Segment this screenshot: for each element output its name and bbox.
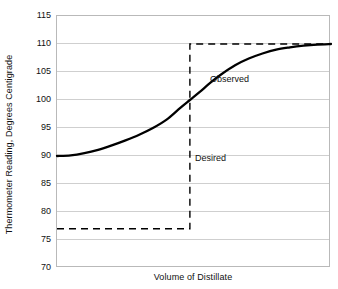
- plot-area: Observed Desired: [56, 15, 330, 267]
- y-tick-105: 105: [18, 67, 51, 76]
- y-tick-100: 100: [18, 95, 51, 104]
- desired-step-line: [57, 44, 331, 229]
- x-axis-title: Volume of Distillate: [56, 272, 330, 282]
- y-tick-110: 110: [18, 39, 51, 48]
- annotation-desired: Desired: [195, 153, 226, 163]
- y-tick-70: 70: [18, 263, 51, 272]
- y-tick-75: 75: [18, 235, 51, 244]
- annotation-observed: Observed: [210, 74, 249, 84]
- y-tick-80: 80: [18, 207, 51, 216]
- y-axis-title: Thermometer Reading, Degrees Centigrade: [0, 0, 18, 289]
- y-tick-115: 115: [18, 11, 51, 20]
- y-axis-tick-labels: 115 110 105 100 95 90 85 80 75 70: [18, 0, 51, 289]
- y-tick-85: 85: [18, 179, 51, 188]
- y-tick-95: 95: [18, 123, 51, 132]
- chart-svg: [57, 16, 331, 268]
- observed-curve: [57, 44, 331, 156]
- chart-figure: Thermometer Reading, Degrees Centigrade …: [0, 0, 338, 289]
- y-tick-90: 90: [18, 151, 51, 160]
